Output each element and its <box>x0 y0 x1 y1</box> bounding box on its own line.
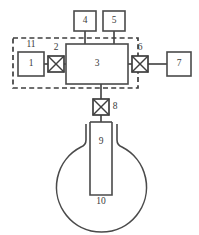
label-2: 2 <box>54 43 59 53</box>
label-9: 9 <box>99 137 104 147</box>
label-11: 11 <box>26 40 35 50</box>
diagram-root: 4 5 11 1 2 3 6 7 8 9 10 <box>0 0 199 235</box>
label-1: 1 <box>29 59 34 69</box>
label-7: 7 <box>177 59 182 69</box>
label-10: 10 <box>96 197 106 207</box>
valve-icon-6[interactable] <box>132 56 148 72</box>
valve-icon-8[interactable] <box>93 99 109 115</box>
inner-tube-9[interactable] <box>90 122 112 195</box>
label-8: 8 <box>113 102 118 112</box>
label-6: 6 <box>138 43 143 53</box>
label-5: 5 <box>112 16 117 26</box>
valve-icon-2[interactable] <box>48 56 64 72</box>
label-3: 3 <box>95 59 100 69</box>
label-4: 4 <box>83 16 88 26</box>
